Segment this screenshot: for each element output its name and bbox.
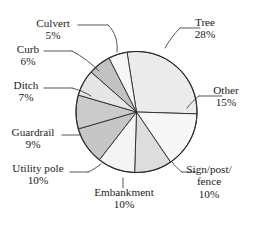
pie-chart-figure: Culvert 5% Curb 6% Ditch 7% Guardrail 9%… xyxy=(0,0,259,228)
pie-label-culvert-value: 5% xyxy=(24,29,82,41)
pie-label-curb: Curb 6% xyxy=(6,43,50,68)
pie-label-tree-value: 28% xyxy=(183,28,227,40)
pie-label-ditch: Ditch 7% xyxy=(3,79,49,104)
pie-label-ditch-value: 7% xyxy=(3,91,49,103)
pie-label-other-name: Other xyxy=(203,84,249,96)
pie-label-tree-name: Tree xyxy=(183,16,227,28)
pie-label-guardrail-name: Guardrail xyxy=(2,126,64,138)
pie-label-curb-value: 6% xyxy=(6,55,50,67)
pie-label-sign-post-fence-name: Sign/post/ xyxy=(183,163,235,175)
pie-label-culvert-name: Culvert xyxy=(24,17,82,29)
pie-label-sign-post-fence-value: 10% xyxy=(183,188,235,200)
pie-slices xyxy=(76,51,197,172)
pie-label-culvert: Culvert 5% xyxy=(24,17,82,42)
pie-label-guardrail: Guardrail 9% xyxy=(2,126,64,151)
leader-line-sign-curve xyxy=(172,162,182,172)
leader-line-culvert-curve xyxy=(108,25,117,52)
leader-line-tree-curve xyxy=(165,28,180,48)
pie-label-utility-pole-value: 10% xyxy=(4,174,72,186)
pie-label-sign-post-fence-name2: fence xyxy=(183,175,235,187)
pie-label-utility-pole-name: Utility pole xyxy=(4,162,72,174)
pie-label-ditch-name: Ditch xyxy=(3,79,49,91)
pie-label-other: Other 15% xyxy=(203,84,249,109)
pie-label-other-value: 15% xyxy=(203,96,249,108)
pie-slice-tree[interactable] xyxy=(127,51,197,113)
pie-label-tree: Tree 28% xyxy=(183,16,227,41)
pie-label-guardrail-value: 9% xyxy=(2,138,64,150)
pie-label-sign-post-fence: Sign/post/ fence 10% xyxy=(183,163,235,200)
pie-label-curb-name: Curb xyxy=(6,43,50,55)
pie-label-utility-pole: Utility pole 10% xyxy=(4,162,72,187)
leader-line-utility-curve xyxy=(88,164,101,172)
pie-label-embankment-value: 10% xyxy=(85,198,163,210)
pie-label-embankment: Embankment 10% xyxy=(85,186,163,211)
pie-label-embankment-name: Embankment xyxy=(85,186,163,198)
